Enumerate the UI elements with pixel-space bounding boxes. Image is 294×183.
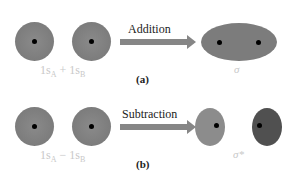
subtraction-arrow-shaft	[120, 124, 188, 130]
nucleus-a	[217, 40, 222, 45]
nucleus-b	[89, 124, 94, 129]
addition-arrow-shaft	[120, 39, 188, 45]
nucleus-a	[32, 39, 37, 44]
combination-label-a: 1sA + 1sB	[40, 63, 85, 79]
orbital-1s-a	[15, 107, 54, 146]
sigma-star-label: σ*	[233, 148, 244, 160]
combination-label-b: 1sA − 1sB	[40, 148, 85, 164]
orbital-1s-a	[15, 22, 54, 61]
sigma-star-lobe-a	[195, 108, 225, 146]
panel-label-b: (b)	[136, 158, 149, 170]
orbital-1s-b	[72, 107, 111, 146]
nucleus-b	[89, 39, 94, 44]
arrow-right-icon	[187, 35, 196, 49]
addition-label: Addition	[128, 22, 171, 37]
nucleus-b	[256, 40, 261, 45]
subtraction-label: Subtraction	[122, 107, 177, 122]
sigma-bonding-orbital	[201, 23, 277, 61]
sigma-label: σ	[234, 63, 239, 75]
panel-label-a: (a)	[136, 73, 149, 85]
sigma-star-lobe-b	[252, 108, 282, 146]
nucleus-a	[214, 123, 219, 128]
orbital-1s-b	[72, 22, 111, 61]
nucleus-a	[32, 124, 37, 129]
nucleus-b	[257, 123, 262, 128]
